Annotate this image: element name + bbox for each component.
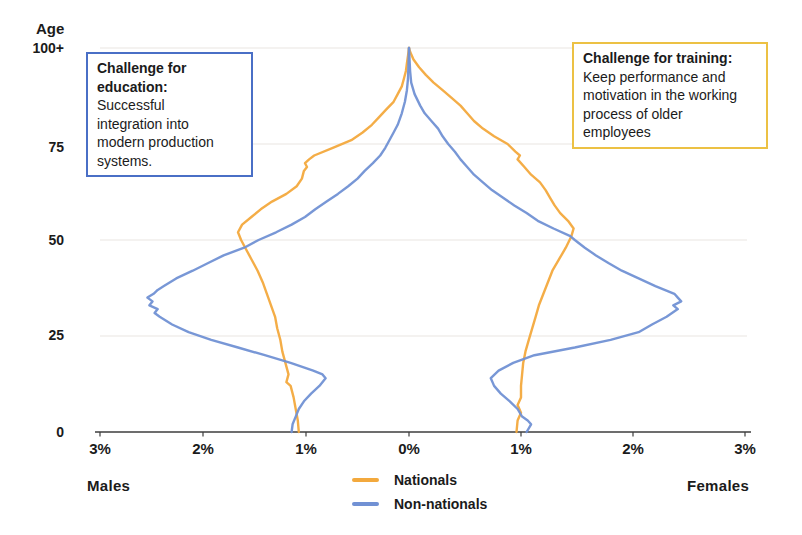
education-annotation-body: Successful integration into modern produ… [97, 96, 242, 170]
y-tick-75: 75 [14, 138, 64, 156]
y-tick-50: 50 [14, 231, 64, 249]
y-axis-title: Age [36, 20, 64, 37]
males-axis-label: Males [87, 477, 130, 494]
x-tick-males-3pct: 3% [89, 440, 111, 457]
y-tick-0: 0 [14, 423, 64, 441]
training-annotation-body: Keep performance and motivation in the w… [583, 68, 757, 142]
y-tick-25: 25 [14, 326, 64, 344]
females-axis-label: Females [687, 477, 749, 494]
x-tick-0pct: 0% [398, 440, 420, 457]
x-tick-females-3pct: 3% [734, 440, 756, 457]
legend: Nationals Non-nationals [352, 468, 487, 516]
training-annotation-box: Challenge for training: Keep performance… [572, 42, 768, 149]
legend-item-nationals: Nationals [352, 468, 487, 492]
x-tick-females-2pct: 2% [622, 440, 644, 457]
education-annotation-box: Challenge for education: Successful inte… [86, 52, 253, 177]
non-nationals-line-swatch [352, 502, 379, 506]
population-pyramid-chart: Age 100+ 75 50 25 0 3% 2% 1% 0% 1% 2% 3%… [0, 0, 802, 535]
x-tick-females-1pct: 1% [510, 440, 532, 457]
x-tick-males-1pct: 1% [295, 440, 317, 457]
legend-label-nationals: Nationals [394, 472, 457, 488]
education-annotation-title: Challenge for education: [97, 59, 242, 96]
legend-label-non-nationals: Non-nationals [394, 496, 487, 512]
y-tick-100plus: 100+ [14, 39, 64, 57]
nationals-line-swatch [352, 478, 379, 482]
x-tick-males-2pct: 2% [192, 440, 214, 457]
legend-item-non-nationals: Non-nationals [352, 492, 487, 516]
training-annotation-title: Challenge for training: [583, 49, 757, 68]
